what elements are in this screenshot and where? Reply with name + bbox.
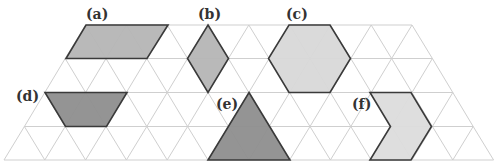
grid-line — [412, 25, 432, 59]
grid-line — [392, 59, 412, 93]
grid-line — [147, 127, 167, 161]
grid-line — [310, 127, 330, 161]
grid-line — [45, 127, 65, 161]
trapezoid-polygon — [45, 93, 127, 127]
grid-line — [453, 127, 473, 161]
parallelogram-polygon — [66, 25, 168, 59]
shape-trapezoid: (d) — [16, 88, 127, 127]
shape-rhombus: (b) — [188, 6, 229, 93]
grid-line — [290, 127, 310, 161]
grid-line — [351, 127, 371, 161]
grid-line — [86, 127, 106, 161]
shape-hexagon: (c) — [269, 6, 351, 93]
grid-line — [188, 93, 208, 127]
shape-parallelogram: (a) — [66, 6, 168, 59]
grid-line — [188, 127, 208, 161]
grid-line — [86, 59, 106, 93]
grid-line — [432, 93, 452, 127]
grid-line — [65, 127, 85, 161]
grid-line — [392, 25, 412, 59]
grid-line — [147, 93, 167, 127]
grid-line — [4, 127, 24, 161]
grid-line — [65, 59, 85, 93]
grid-line — [473, 127, 493, 161]
grid-line — [126, 59, 146, 93]
shape-label: (c) — [286, 6, 308, 22]
grid-line — [371, 25, 391, 59]
grid-line — [351, 25, 371, 59]
grid-line — [45, 59, 65, 93]
grid-line — [249, 25, 269, 59]
grid-line — [330, 127, 350, 161]
diagram-canvas: (a)(b)(c)(d)(e)(f) — [0, 0, 497, 165]
grid-line — [126, 93, 146, 127]
grid-line — [228, 59, 248, 93]
grid-line — [310, 93, 330, 127]
grid-line — [167, 59, 187, 93]
shape-label: (b) — [198, 6, 221, 22]
grid-line — [24, 127, 44, 161]
grid-line — [412, 59, 432, 93]
grid-line — [290, 93, 310, 127]
grid-line — [106, 59, 126, 93]
grid-line — [228, 25, 248, 59]
shape-label: (a) — [86, 6, 108, 22]
rhombus-polygon — [188, 25, 229, 93]
grid-line — [351, 59, 371, 93]
grid-line — [432, 127, 452, 161]
grid-line — [167, 25, 187, 59]
hexagon-polygon — [269, 25, 351, 93]
grid-line — [249, 59, 269, 93]
grid-line — [453, 93, 473, 127]
grid-line — [432, 59, 452, 93]
triangular-grid-diagram: (a)(b)(c)(d)(e)(f) — [0, 0, 497, 165]
grid-line — [371, 59, 391, 93]
grid-line — [147, 59, 167, 93]
grid-line — [106, 127, 126, 161]
grid-line — [269, 93, 289, 127]
grid-line — [330, 93, 350, 127]
shape-label: (e) — [216, 96, 238, 112]
grid-line — [167, 127, 187, 161]
grid-line — [167, 93, 187, 127]
grid-line — [126, 127, 146, 161]
shape-label: (d) — [16, 88, 39, 104]
shape-label: (f) — [352, 96, 371, 112]
